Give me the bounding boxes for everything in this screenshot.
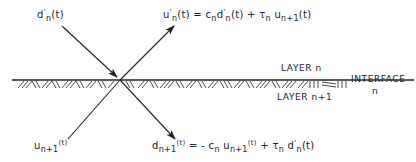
plus: + bbox=[247, 9, 256, 20]
plus: + bbox=[260, 140, 269, 151]
arg: (t) bbox=[176, 139, 185, 147]
arg: (t) bbox=[231, 9, 244, 20]
subscript: n bbox=[279, 145, 284, 154]
subscript: n+1 bbox=[41, 145, 59, 154]
ray-u-n-plus-1 bbox=[68, 80, 120, 139]
label-layer-upper: LAYER n bbox=[281, 64, 322, 73]
ray-d-n-prime bbox=[62, 26, 117, 77]
sym: d bbox=[152, 140, 159, 151]
label-u-n-plus-1: un+1(t) bbox=[34, 140, 68, 154]
arg: (t) bbox=[177, 9, 190, 20]
label-interface: INTERFACE bbox=[351, 75, 406, 84]
subscript: n bbox=[214, 145, 219, 154]
sym: u bbox=[223, 140, 230, 151]
equals-minus: = - bbox=[189, 140, 205, 151]
subscript: n+1 bbox=[230, 145, 248, 154]
sym: d bbox=[37, 9, 44, 20]
arg: (t) bbox=[248, 139, 257, 147]
ray-u-n-prime bbox=[120, 26, 174, 80]
ray-d-n-plus-1 bbox=[120, 80, 175, 139]
equals: = bbox=[193, 9, 202, 20]
arg: (t) bbox=[51, 9, 64, 20]
interface-hatching bbox=[18, 81, 346, 88]
arg: (t) bbox=[58, 139, 67, 147]
subscript: n+1 bbox=[159, 145, 177, 154]
label-layer-lower: LAYER n+1 bbox=[277, 93, 332, 102]
subscript: n bbox=[266, 14, 271, 23]
label-d-n-prime: d'n(t) bbox=[37, 9, 64, 23]
equation-d-n-plus-1: dn+1(t) = - cn un+1(t) + τn d'n(t) bbox=[152, 140, 315, 154]
arg: (t) bbox=[302, 140, 315, 151]
sym: u bbox=[34, 140, 41, 151]
sym: u bbox=[163, 9, 170, 20]
subscript: n+1 bbox=[281, 14, 299, 23]
equation-u-n-prime: u'n(t) = cnd'n(t) + τn un+1(t) bbox=[163, 9, 311, 23]
label-interface-index: n bbox=[372, 87, 378, 96]
arg: (t) bbox=[299, 9, 312, 20]
